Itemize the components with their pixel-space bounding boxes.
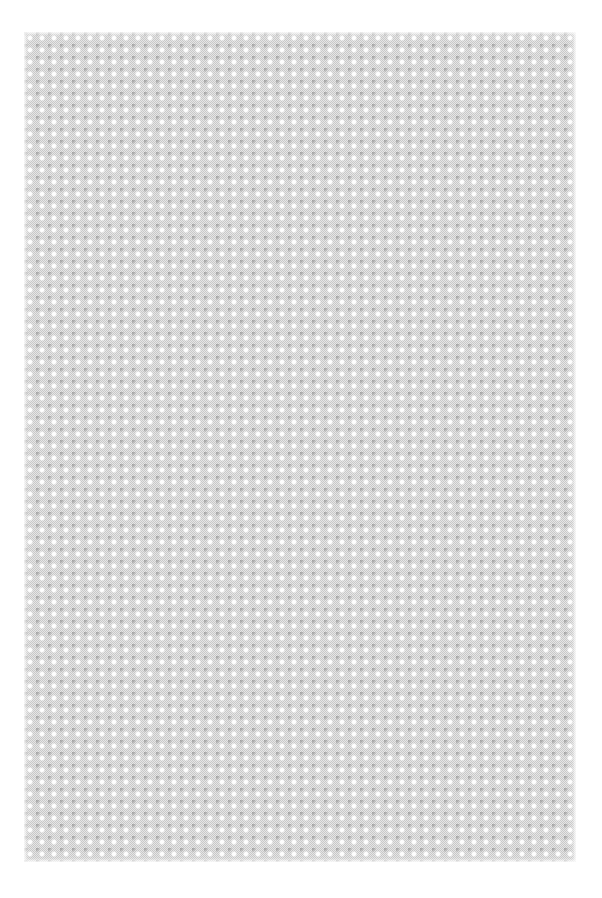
page-canvas	[0, 0, 602, 898]
diamond-lattice-texture	[24, 32, 576, 862]
